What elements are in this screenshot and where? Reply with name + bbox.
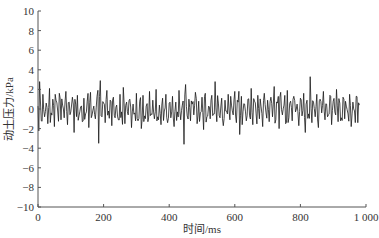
y-axis-title: 动土压力/kPa xyxy=(3,77,15,141)
y-tick-label: −8 xyxy=(22,181,34,193)
y-tick-label: 0 xyxy=(29,103,35,115)
x-tick-label: 0 xyxy=(35,211,41,223)
x-axis-title: 时间/ms xyxy=(183,223,221,235)
y-tick-label: 8 xyxy=(29,25,35,37)
y-tick-label: 4 xyxy=(29,64,35,76)
x-tick-label: 1 000 xyxy=(354,211,379,223)
y-tick-label: −6 xyxy=(22,162,34,174)
y-tick-label: −10 xyxy=(17,201,35,213)
y-tick-label: 10 xyxy=(23,5,35,17)
x-tick-label: 400 xyxy=(161,211,178,223)
x-tick-label: 200 xyxy=(95,211,112,223)
data-series-line xyxy=(38,77,359,145)
x-tick-label: 600 xyxy=(227,211,244,223)
x-axis: 02004006008001 000 xyxy=(35,204,379,223)
y-tick-label: −4 xyxy=(22,142,34,154)
line-chart: 1086420−2−4−6−8−10 02004006008001 000 动土… xyxy=(0,0,379,238)
plot-area xyxy=(38,77,359,145)
y-axis: 1086420−2−4−6−8−10 xyxy=(17,5,41,213)
y-tick-label: −2 xyxy=(22,123,34,135)
x-tick-label: 800 xyxy=(292,211,309,223)
y-tick-label: 2 xyxy=(29,83,35,95)
y-tick-label: 6 xyxy=(29,44,35,56)
